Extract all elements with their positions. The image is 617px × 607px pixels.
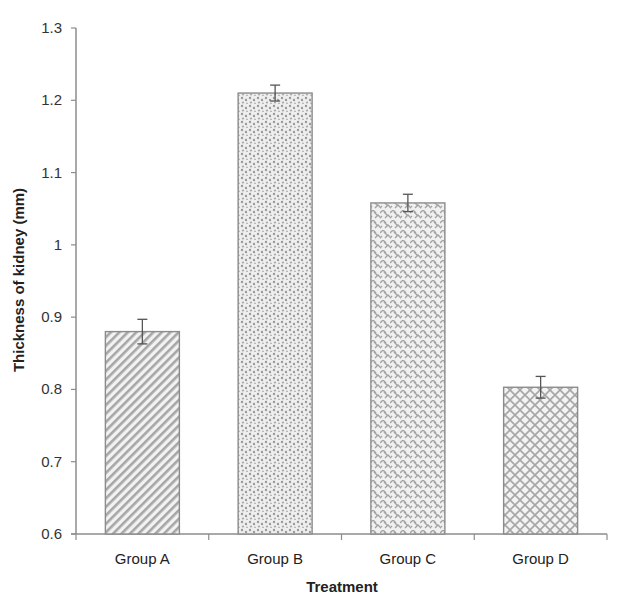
x-category-label: Group C: [380, 550, 437, 567]
y-tick-label: 0.9: [41, 308, 62, 325]
y-tick-label: 1.1: [41, 164, 62, 181]
bar-chart: 0.60.70.80.911.11.21.3 Group AGroup BGro…: [0, 0, 617, 607]
y-tick-label: 1.2: [41, 91, 62, 108]
x-axis: Group AGroup BGroup CGroup D: [71, 534, 607, 567]
bar-group-d: [504, 376, 578, 534]
bar-group-b: [238, 85, 312, 534]
y-tick-label: 0.8: [41, 380, 62, 397]
y-axis: 0.60.70.80.911.11.21.3: [41, 19, 76, 542]
y-tick-label: 0.7: [41, 453, 62, 470]
y-axis-title: Thickness of kidney (mm): [10, 188, 27, 372]
x-category-label: Group B: [247, 550, 303, 567]
y-tick-label: 1: [54, 236, 62, 253]
x-category-label: Group D: [512, 550, 569, 567]
y-tick-label: 1.3: [41, 19, 62, 36]
bars: [105, 85, 577, 534]
bar-group-c: [371, 194, 445, 534]
x-category-label: Group A: [115, 550, 170, 567]
y-tick-label: 0.6: [41, 525, 62, 542]
bar-group-a: [105, 319, 179, 534]
x-axis-title: Treatment: [306, 578, 378, 595]
